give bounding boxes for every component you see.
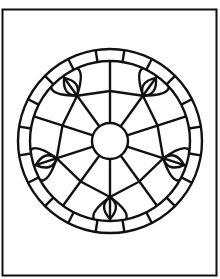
coloring-page-artwork (0, 0, 220, 279)
rose-window (18, 49, 202, 233)
